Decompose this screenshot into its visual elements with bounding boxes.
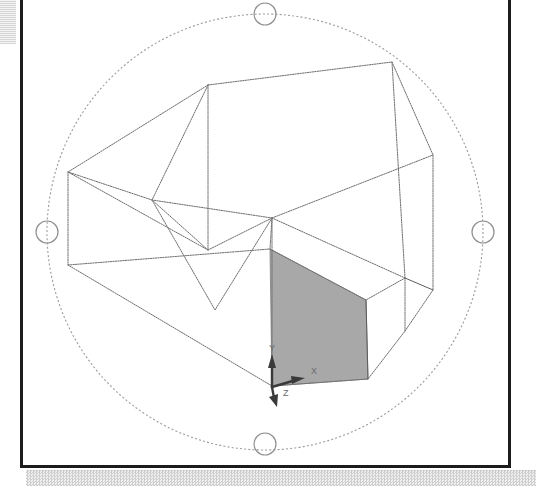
wire-edge [152, 200, 272, 218]
wire-edge [68, 62, 433, 386]
viewport-frame[interactable]: X Y Z [20, 0, 511, 468]
wire-edge [405, 278, 433, 290]
orbit-ring[interactable] [47, 14, 483, 450]
shaded-face[interactable] [270, 249, 368, 386]
screen-root: X Y Z [0, 0, 544, 488]
wire-edge [272, 155, 433, 218]
wire-edge [208, 218, 272, 386]
axis-arrowhead-z [269, 394, 278, 407]
wireframe-group[interactable] [68, 62, 433, 386]
wire-edge [68, 249, 405, 300]
status-strip [26, 470, 536, 486]
adjacent-panel-sliver [0, 0, 16, 44]
axis-label-x: X [311, 366, 317, 376]
orbit-handle-bottom[interactable] [254, 433, 276, 455]
viewport-canvas[interactable]: X Y Z [20, 0, 511, 468]
wire-edge [68, 85, 208, 250]
axis-label-y: Y [269, 343, 275, 353]
axis-label-z: Z [283, 388, 289, 398]
